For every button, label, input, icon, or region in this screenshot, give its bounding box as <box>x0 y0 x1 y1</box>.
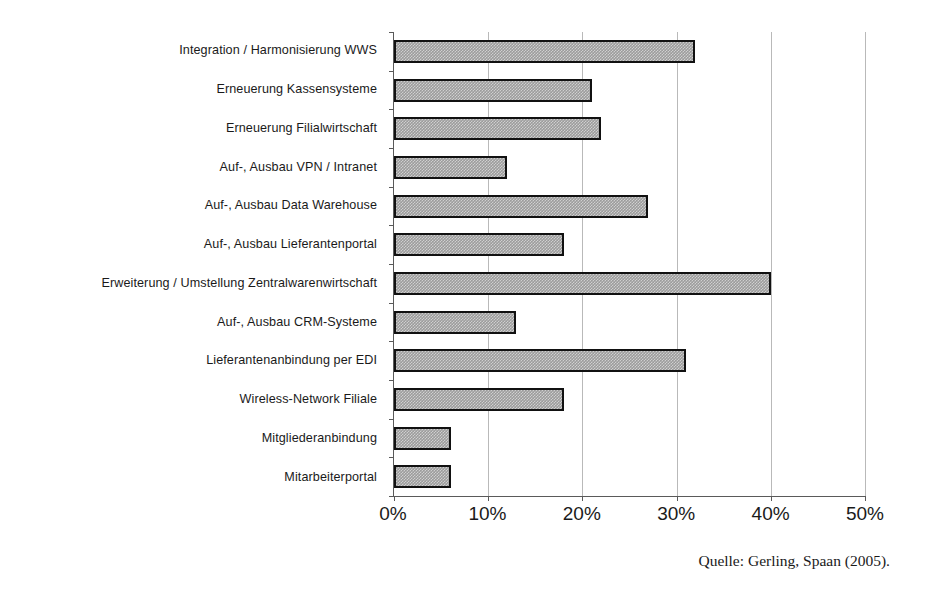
bar <box>394 117 601 140</box>
bar-chart-figure: Integration / Harmonisierung WWS Erneuer… <box>0 0 928 597</box>
bar <box>394 427 451 450</box>
bar <box>394 233 564 256</box>
category-label: Erweiterung / Umstellung Zentralwarenwir… <box>0 265 385 304</box>
bar-row <box>394 264 865 303</box>
x-axis-tick-label: 40% <box>752 503 790 525</box>
x-axis-tick-labels: 0%10%20%30%40%50% <box>393 503 865 529</box>
bar-series <box>394 32 865 496</box>
bar-row <box>394 457 865 496</box>
x-axis-tick <box>582 496 583 501</box>
x-axis-tick <box>677 496 678 501</box>
category-label: Erneuerung Filialwirtschaft <box>0 110 385 149</box>
x-axis-tick-label: 10% <box>468 503 506 525</box>
plot-area <box>393 32 865 497</box>
bar <box>394 465 451 488</box>
x-axis-tick-label: 50% <box>846 503 884 525</box>
source-note: Quelle: Gerling, Spaan (2005). <box>0 552 890 570</box>
bar <box>394 272 771 295</box>
bar-row <box>394 109 865 148</box>
category-label: Integration / Harmonisierung WWS <box>0 32 385 71</box>
category-label: Mitarbeiterportal <box>0 458 385 497</box>
bar-row <box>394 419 865 458</box>
bar <box>394 311 516 334</box>
bar <box>394 79 592 102</box>
x-axis-ticks <box>394 496 865 501</box>
category-label: Wireless-Network Filiale <box>0 381 385 420</box>
bar-row <box>394 303 865 342</box>
bar-row <box>394 187 865 226</box>
category-label: Lieferantenanbindung per EDI <box>0 342 385 381</box>
x-axis-tick <box>394 496 395 501</box>
bar-row <box>394 341 865 380</box>
category-axis-labels: Integration / Harmonisierung WWS Erneuer… <box>0 32 385 497</box>
category-label: Auf-, Ausbau VPN / Intranet <box>0 148 385 187</box>
category-label: Auf-, Ausbau CRM-Systeme <box>0 303 385 342</box>
bar-row <box>394 148 865 187</box>
category-label: Erneuerung Kassensysteme <box>0 71 385 110</box>
bar-row <box>394 380 865 419</box>
bar <box>394 349 686 372</box>
category-label: Auf-, Ausbau Data Warehouse <box>0 187 385 226</box>
x-axis-tick <box>865 496 866 501</box>
bar <box>394 40 695 63</box>
bar-row <box>394 225 865 264</box>
category-label: Mitgliederanbindung <box>0 420 385 459</box>
bar <box>394 156 507 179</box>
bar-row <box>394 71 865 110</box>
bar <box>394 195 648 218</box>
x-axis-tick-label: 0% <box>379 503 406 525</box>
bar <box>394 388 564 411</box>
gridline <box>865 32 866 496</box>
x-axis-tick <box>771 496 772 501</box>
x-axis-tick-label: 30% <box>657 503 695 525</box>
x-axis-tick-label: 20% <box>563 503 601 525</box>
category-label: Auf-, Ausbau Lieferantenportal <box>0 226 385 265</box>
bar-row <box>394 32 865 71</box>
x-axis-tick <box>488 496 489 501</box>
